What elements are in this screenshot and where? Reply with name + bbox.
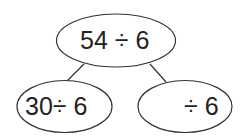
left-child-label: 30÷ 6	[25, 94, 87, 119]
right-child-label: ÷ 6	[184, 94, 219, 119]
connector-right	[150, 64, 166, 82]
root-label: 54 ÷ 6	[80, 28, 149, 53]
connector-left	[67, 64, 84, 81]
